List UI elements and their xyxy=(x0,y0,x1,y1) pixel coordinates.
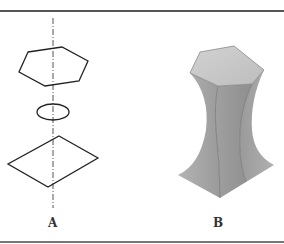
bottom-rule xyxy=(0,241,284,243)
panel-label-a: A xyxy=(48,216,57,230)
panel-b-solid xyxy=(178,46,274,198)
panel-label-b: B xyxy=(213,216,223,230)
solid-left-face xyxy=(178,73,220,198)
panel-a-drawing xyxy=(8,18,98,208)
figure-canvas xyxy=(0,0,284,244)
